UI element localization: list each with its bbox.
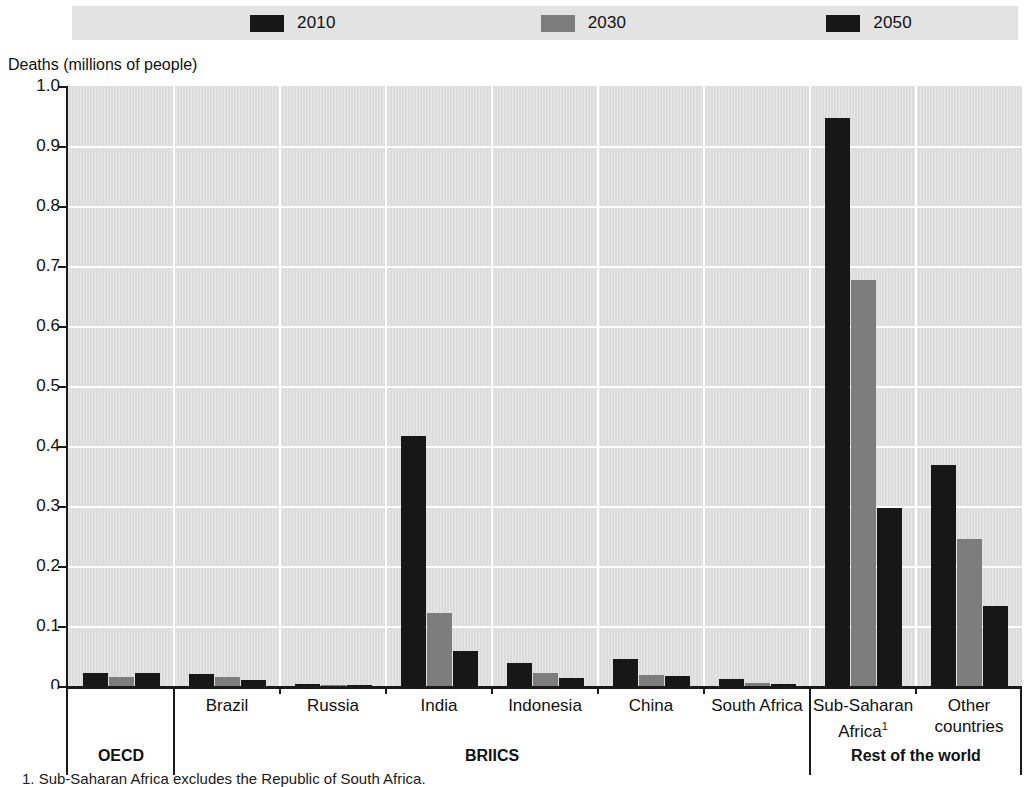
- category-label-south-africa: South Africa: [704, 695, 810, 716]
- category-label-sub-saharan-africa: Sub-SaharanAfrica1: [810, 695, 916, 742]
- label-band-separator: [1020, 689, 1022, 775]
- category-label-brazil: Brazil: [174, 695, 280, 716]
- x-axis-tick: [491, 686, 493, 694]
- category-label-india: India: [386, 695, 492, 716]
- gridline-horizontal: [68, 446, 1022, 448]
- bar-india-2010: [401, 436, 426, 686]
- group-rest-of-the-world: Rest of the world: [810, 747, 1022, 765]
- bar-indonesia-2010: [507, 663, 532, 686]
- gridline-horizontal: [68, 386, 1022, 388]
- y-axis-tick-label: 0.7: [4, 256, 60, 276]
- group-briics: BRIICS: [174, 747, 810, 765]
- category-label-other-countries: Othercountries: [916, 695, 1022, 737]
- gridline-vertical: [173, 86, 175, 686]
- bar-india-2030: [427, 613, 452, 686]
- bar-indonesia-2030: [533, 673, 558, 686]
- y-axis-title: Deaths (millions of people): [8, 56, 197, 74]
- plot-area: [68, 86, 1022, 686]
- gridline-vertical: [597, 86, 599, 686]
- label-band-separator: [809, 689, 811, 775]
- legend-2010: 2010: [250, 13, 336, 33]
- gridline-vertical: [279, 86, 281, 686]
- x-axis-tick: [173, 686, 175, 694]
- bar-india-2050: [453, 651, 478, 686]
- legend-label: 2030: [588, 13, 627, 33]
- x-axis-tick: [915, 686, 917, 694]
- gridline-vertical: [385, 86, 387, 686]
- gridline-horizontal: [68, 326, 1022, 328]
- gridline-vertical: [703, 86, 705, 686]
- legend-swatch-icon: [250, 15, 284, 32]
- category-label-china: China: [598, 695, 704, 716]
- gridline-vertical: [809, 86, 811, 686]
- category-label-indonesia: Indonesia: [492, 695, 598, 716]
- bar-china-2030: [639, 675, 664, 686]
- chart-footnote: 1. Sub-Saharan Africa excludes the Repub…: [22, 770, 426, 787]
- bar-sub-saharan-africa-2010: [825, 118, 850, 686]
- bar-other-countries-2050: [983, 606, 1008, 686]
- bar-china-2010: [613, 659, 638, 686]
- x-axis-tick: [809, 686, 811, 694]
- gridline-horizontal: [68, 146, 1022, 148]
- gridline-horizontal: [68, 206, 1022, 208]
- legend-label: 2050: [873, 13, 912, 33]
- legend-swatch-icon: [541, 15, 575, 32]
- gridline-vertical: [915, 86, 917, 686]
- group-oecd: OECD: [68, 747, 174, 765]
- bar-oecd-2050: [135, 673, 160, 686]
- bar-sub-saharan-africa-2050: [877, 508, 902, 686]
- bar-china-2050: [665, 676, 690, 686]
- y-axis-tick-label: 0.8: [4, 196, 60, 216]
- bar-oecd-2030: [109, 677, 134, 686]
- x-axis-tick: [385, 686, 387, 694]
- bar-indonesia-2050: [559, 678, 584, 686]
- y-axis-tick-label: 0.1: [4, 616, 60, 636]
- bar-other-countries-2030: [957, 539, 982, 686]
- y-axis-tick-label: 0.4: [4, 436, 60, 456]
- bar-other-countries-2010: [931, 465, 956, 686]
- legend-label: 2010: [297, 13, 336, 33]
- y-axis-tick-label: 0.9: [4, 136, 60, 156]
- legend-swatch-icon: [826, 15, 860, 32]
- legend-2050: 2050: [826, 13, 912, 33]
- x-axis-tick: [703, 686, 705, 694]
- y-axis-tick-label: 0.6: [4, 316, 60, 336]
- x-axis-tick: [279, 686, 281, 694]
- gridline-horizontal: [68, 266, 1022, 268]
- y-axis-tick-label: 1.0: [4, 76, 60, 96]
- chart-legend: 201020302050: [72, 6, 1018, 40]
- y-axis-tick-label: 0.3: [4, 496, 60, 516]
- bar-oecd-2010: [83, 673, 108, 686]
- bar-sub-saharan-africa-2030: [851, 280, 876, 686]
- bar-brazil-2010: [189, 674, 214, 686]
- bar-brazil-2030: [215, 677, 240, 686]
- y-axis-tick-label: 0.2: [4, 556, 60, 576]
- bar-south-africa-2010: [719, 679, 744, 686]
- x-axis-tick: [597, 686, 599, 694]
- label-band-separator: [173, 689, 175, 775]
- label-band-separator: [66, 689, 68, 775]
- category-label-russia: Russia: [280, 695, 386, 716]
- y-axis-tick-label: 0.5: [4, 376, 60, 396]
- gridline-vertical: [491, 86, 493, 686]
- legend-2030: 2030: [541, 13, 627, 33]
